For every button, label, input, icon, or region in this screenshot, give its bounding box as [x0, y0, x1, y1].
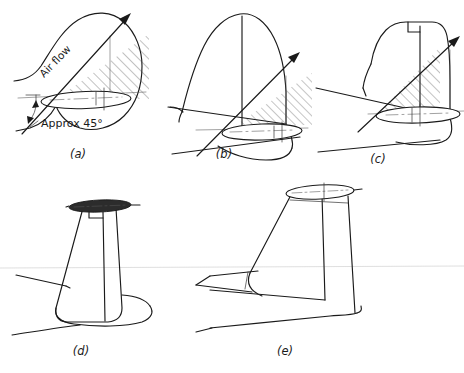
- panel-b: (b): [168, 14, 320, 161]
- panel-d-stabiliser-line2: [66, 286, 70, 288]
- panel-e: (e): [196, 183, 362, 358]
- panel-e-stabiliser-leading: [210, 271, 258, 276]
- angle-label: Approx 45°: [41, 117, 103, 130]
- panel-c: (c): [316, 22, 464, 166]
- panel-label-c: (c): [370, 152, 385, 166]
- panel-d-fuselage-aft-sweep: [122, 295, 150, 306]
- panel-d: (d): [0, 199, 464, 358]
- panel-e-fuselage-tailcone: [357, 306, 361, 313]
- panel-e-fuselage-lower: [210, 313, 357, 328]
- panel-label-b: (b): [216, 147, 232, 161]
- panel-b-fin-leading-root: [179, 112, 182, 122]
- panel-e-tailplane-ellipse: [286, 183, 355, 201]
- panel-a-angle-arrowhead-upper: [32, 100, 39, 108]
- panel-c-ground-line: [318, 140, 440, 152]
- panel-label-a: (a): [70, 147, 86, 161]
- panel-b-hatched-region: [230, 65, 320, 130]
- fin-configuration-diagram: Air flow Approx 45° (a): [0, 0, 464, 373]
- panel-e-rudder-hinge: [322, 195, 325, 300]
- panel-d-fuselage-outline: [56, 306, 152, 326]
- panel-c-dorsal-fillet: [363, 64, 371, 88]
- panel-d-rudder-hinge: [103, 212, 105, 321]
- panel-e-fuselage-top-line: [210, 290, 325, 300]
- panel-e-stabiliser-rib: [245, 272, 248, 289]
- panel-a-airflow-arrow-head: [119, 13, 131, 25]
- panel-label-e: (e): [277, 344, 293, 358]
- panel-e-rudder-top-line: [290, 200, 348, 203]
- panel-e-fin-root-line: [249, 273, 263, 296]
- panel-e-fuselage-bottom-line: [196, 328, 212, 332]
- figure-root: Air flow Approx 45° (a): [0, 0, 464, 373]
- panel-e-fin-leading-edge: [250, 193, 292, 273]
- panel-d-tailplane-span-left: [66, 206, 69, 207]
- airflow-label: Air flow: [37, 42, 73, 79]
- panel-d-stabiliser-line: [16, 275, 66, 286]
- panel-b-airflow-arrow-head: [288, 52, 300, 63]
- panel-d-fin-outline: [56, 208, 122, 322]
- panel-c-rudder-cutout: [408, 22, 420, 32]
- panel-d-background-waterline: [0, 266, 464, 268]
- panel-label-d: (d): [73, 344, 89, 358]
- panel-a-angle-arrowhead-lower: [27, 116, 34, 124]
- panel-c-fillet-to-fuselage: [363, 88, 366, 96]
- panel-a: Air flow Approx 45° (a): [14, 13, 160, 161]
- panel-b-ground-line: [172, 137, 300, 154]
- panel-e-tailplane-span-right: [354, 189, 362, 190]
- panel-e-stabiliser-tip: [196, 276, 210, 285]
- panel-d-fuselage-lower-line: [12, 325, 80, 335]
- panel-e-fin-trailing-edge: [348, 196, 355, 313]
